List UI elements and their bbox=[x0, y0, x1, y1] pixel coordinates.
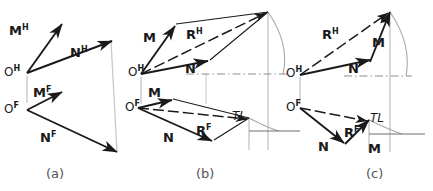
resultant-rf bbox=[300, 108, 367, 121]
origin-label-of: OF bbox=[286, 101, 301, 113]
vector-label-mf: MF bbox=[33, 86, 51, 99]
resultant-label-rf: RF bbox=[344, 126, 359, 139]
origin-label-of: OF bbox=[4, 103, 19, 115]
vector-label-n-bottom: N bbox=[163, 131, 174, 144]
vector-label-m-bottom: M bbox=[368, 142, 381, 155]
resultant-label-rf: RF bbox=[196, 124, 211, 137]
panel-c-construction bbox=[300, 12, 425, 152]
vector-label-n-top: N bbox=[348, 62, 359, 75]
vector-label-n-top: N bbox=[185, 62, 196, 75]
resultant-label-rh: RH bbox=[322, 28, 339, 41]
figure-canvas: MH NH OH MF OF NF (a) M RH N OH M OF N R… bbox=[0, 0, 433, 191]
vector-label-n-bottom: N bbox=[318, 140, 329, 153]
origin-label-oh: OH bbox=[128, 66, 144, 78]
true-length-label: TL bbox=[232, 110, 246, 122]
vector-label-mh: MH bbox=[9, 24, 29, 37]
true-length-label: TL bbox=[370, 112, 384, 124]
vector-label-m-top: M bbox=[143, 31, 156, 44]
vector-label-m-bottom: M bbox=[148, 86, 161, 99]
resultant-rh bbox=[141, 13, 266, 74]
panel-caption-a: (a) bbox=[46, 166, 64, 181]
vector-diagram-svg bbox=[0, 0, 433, 191]
panel-caption-c: (c) bbox=[366, 166, 383, 181]
vector-label-nf: NF bbox=[40, 131, 56, 144]
origin-label-of: OF bbox=[125, 101, 140, 113]
origin-label-oh: OH bbox=[286, 67, 302, 79]
panel-caption-b: (b) bbox=[196, 166, 214, 181]
vector-label-nh: NH bbox=[70, 46, 88, 59]
vector-label-m-top: M bbox=[372, 36, 385, 49]
origin-label-oh: OH bbox=[4, 66, 20, 78]
panel-b-parallelogram-top bbox=[141, 12, 268, 74]
resultant-label-rh: RH bbox=[186, 28, 203, 41]
